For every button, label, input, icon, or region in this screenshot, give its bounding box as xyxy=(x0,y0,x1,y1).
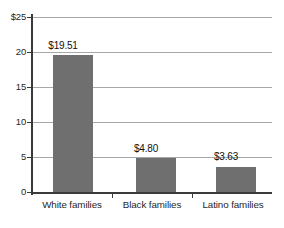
bar-value-black-families: $4.80 xyxy=(106,144,186,154)
y-tick-label-25: $25 xyxy=(0,12,26,22)
y-axis-line xyxy=(31,14,33,195)
bar-white-families[interactable] xyxy=(53,55,93,192)
y-tick-label-5: 5 xyxy=(0,152,26,162)
y-tick-label-15: 15 xyxy=(0,82,26,92)
x-label-latino-families: Latino families xyxy=(192,200,274,211)
x-label-black-families: Black families xyxy=(112,200,192,211)
bar-chart-figure: $25 20 15 10 5 0 $19.51 $4.80 $3.63 xyxy=(0,0,284,228)
x-axis-line xyxy=(31,192,272,194)
bar-black-families[interactable] xyxy=(136,158,176,192)
bar-latino-families[interactable] xyxy=(216,167,256,192)
gridline-25 xyxy=(32,17,272,18)
bar-value-white-families: $19.51 xyxy=(23,41,103,51)
y-tick-label-10: 10 xyxy=(0,117,26,127)
x-label-white-families: White families xyxy=(32,200,112,211)
y-tick-label-0: 0 xyxy=(0,187,26,197)
bar-value-latino-families: $3.63 xyxy=(186,152,266,162)
gridline-20 xyxy=(32,52,272,53)
